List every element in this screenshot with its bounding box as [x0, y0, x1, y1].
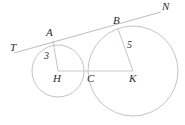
tangent-line-TN [14, 12, 161, 53]
radius-segment-KB [118, 29, 133, 71]
label-radius-3: 3 [44, 51, 49, 61]
label-A: A [46, 27, 53, 38]
label-K: K [129, 73, 136, 84]
label-B: B [113, 15, 120, 26]
geometry-canvas [0, 0, 185, 125]
label-N: N [162, 1, 169, 12]
geometry-figure: T A B N H C K 3 5 [0, 0, 185, 125]
label-H: H [53, 73, 61, 84]
label-radius-5: 5 [127, 40, 132, 50]
label-C: C [87, 73, 94, 84]
label-T: T [10, 42, 16, 53]
